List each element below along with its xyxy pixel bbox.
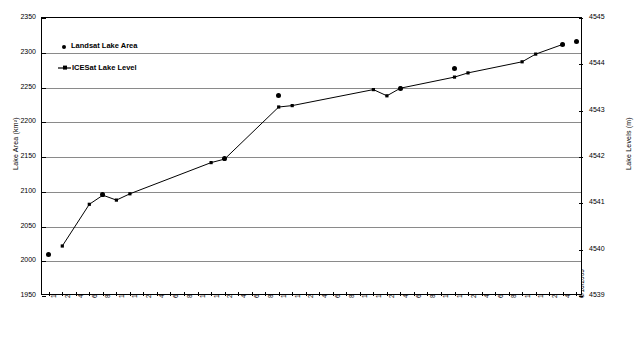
y-axis-right-title: Lake Levels (m): [625, 99, 632, 189]
landsat-data-point: [222, 156, 227, 161]
y-axis-left-title: Lake Area (km²): [12, 99, 19, 189]
icesat-lake-level-line: [62, 44, 562, 246]
icesat-data-point: [291, 104, 294, 107]
y-axis-left-tick-label: 2100: [0, 187, 36, 194]
legend-label-icesat: ICESat Lake Level: [72, 63, 137, 72]
y-axis-left-tick-label: 2350: [0, 13, 36, 20]
legend-label-landsat: Landsat Lake Area: [71, 41, 137, 50]
y-axis-left-tick-label: 1950: [0, 291, 36, 298]
y-axis-left-tick-label: 2200: [0, 117, 36, 124]
y2-tickmark: [579, 296, 583, 297]
icesat-data-point: [521, 60, 524, 63]
series-lines: [42, 18, 583, 296]
y-axis-left-tick-label: 2150: [0, 152, 36, 159]
y-axis-left-tick-label: 2250: [0, 83, 36, 90]
y-axis-right-tick-label: 4541: [589, 198, 619, 205]
icesat-data-point: [115, 199, 118, 202]
landsat-data-point: [574, 39, 579, 44]
legend-marker-icesat: [58, 64, 72, 72]
y-axis-right-tick-label: 4545: [589, 13, 619, 20]
icesat-data-point: [88, 203, 91, 206]
y-axis-right-tick-label: 4544: [589, 59, 619, 66]
icesat-data-point: [128, 192, 131, 195]
chart-container: Lake Area (km²) Lake Levels (m) 19502000…: [0, 0, 643, 353]
icesat-data-point: [372, 88, 375, 91]
y-tickmark: [42, 296, 46, 297]
icesat-data-point: [61, 244, 64, 247]
y-axis-left-tick-label: 2050: [0, 222, 36, 229]
y-axis-right-tick-label: 4540: [589, 245, 619, 252]
y-axis-left-tick-label: 2000: [0, 256, 36, 263]
icesat-data-point: [385, 94, 388, 97]
icesat-data-point: [534, 53, 537, 56]
y-axis-right-tick-label: 4542: [589, 152, 619, 159]
landsat-data-point: [398, 86, 403, 91]
plot-area: Landsat Lake Area ICESat Lake Level: [41, 17, 582, 295]
y-axis-left-tick-label: 2300: [0, 48, 36, 55]
y-axis-right-tick-label: 4543: [589, 106, 619, 113]
icesat-data-point: [210, 161, 213, 164]
icesat-data-point: [453, 76, 456, 79]
icesat-data-point: [277, 105, 280, 108]
y-axis-right-tick-label: 4539: [589, 291, 619, 298]
icesat-data-point: [466, 71, 469, 74]
legend-marker-landsat: [62, 45, 66, 49]
